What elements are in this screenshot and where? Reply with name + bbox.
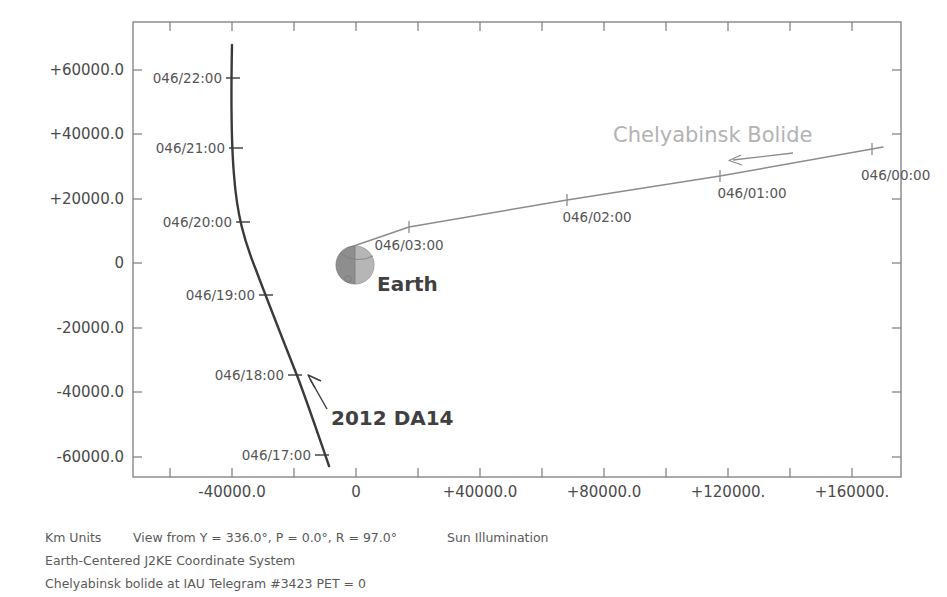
- bolide-time-label: 046/03:00: [374, 237, 443, 253]
- x-tick-label: +120000.: [691, 483, 766, 501]
- bolide-time-labels: 046/03:00 046/02:00 046/01:00 046/00:00: [374, 167, 930, 253]
- trajectory-plot: +60000.0 +40000.0 +20000.0 0 -20000.0 -4…: [0, 0, 947, 597]
- x-axis-ticks: [170, 22, 901, 477]
- da14-trajectory-curve: [231, 45, 329, 466]
- da14-time-label: 046/18:00: [215, 367, 284, 383]
- y-axis-ticks: [133, 70, 142, 457]
- bolide-series-title: Chelyabinsk Bolide: [613, 123, 812, 147]
- bolide-time-label: 046/01:00: [717, 185, 786, 201]
- y-tick-label: +60000.0: [49, 61, 124, 79]
- x-tick-label: 0: [351, 483, 361, 501]
- x-tick-label: -40000.0: [198, 483, 265, 501]
- footer-source-note: Chelyabinsk bolide at IAU Telegram #3423…: [45, 576, 366, 591]
- bolide-direction-arrow: [729, 153, 793, 165]
- da14-time-label: 046/20:00: [163, 214, 232, 230]
- earth-illuminated-limb: [355, 246, 374, 284]
- footer-coordinate-system: Earth-Centered J2KE Coordinate System: [45, 553, 295, 568]
- da14-tick-marks: [226, 78, 329, 455]
- footer-block: Km Units View from Y = 336.0°, P = 0.0°,…: [45, 530, 548, 591]
- da14-time-label: 046/21:00: [156, 140, 225, 156]
- x-axis-labels: -40000.0 0 +40000.0 +80000.0 +120000. +1…: [198, 483, 889, 501]
- x-tick-label: +40000.0: [443, 483, 518, 501]
- y-tick-label: +40000.0: [49, 125, 124, 143]
- footer-units: Km Units: [45, 530, 101, 545]
- x-tick-label: +80000.0: [567, 483, 642, 501]
- y-tick-label: -20000.0: [57, 319, 124, 337]
- earth-globe: [336, 246, 374, 284]
- y-tick-label: +20000.0: [49, 190, 124, 208]
- footer-view: View from Y = 336.0°, P = 0.0°, R = 97.0…: [133, 530, 397, 545]
- bolide-time-label: 046/02:00: [562, 209, 631, 225]
- bolide-trajectory-line: [348, 147, 883, 248]
- y-tick-label: -40000.0: [57, 383, 124, 401]
- earth-label: Earth: [377, 272, 438, 296]
- footer-illumination: Sun Illumination: [447, 530, 548, 545]
- da14-time-label: 046/17:00: [242, 447, 311, 463]
- x-tick-label: +160000.: [815, 483, 890, 501]
- chart-canvas: +60000.0 +40000.0 +20000.0 0 -20000.0 -4…: [0, 0, 947, 597]
- da14-time-label: 046/22:00: [153, 70, 222, 86]
- bolide-time-label: 046/00:00: [861, 167, 930, 183]
- y-tick-label: 0: [114, 254, 124, 272]
- da14-direction-arrow: [308, 375, 327, 409]
- y-tick-label: -60000.0: [57, 448, 124, 466]
- da14-series-title: 2012 DA14: [331, 406, 454, 430]
- y-axis-labels: +60000.0 +40000.0 +20000.0 0 -20000.0 -4…: [49, 61, 124, 466]
- da14-time-label: 046/19:00: [186, 287, 255, 303]
